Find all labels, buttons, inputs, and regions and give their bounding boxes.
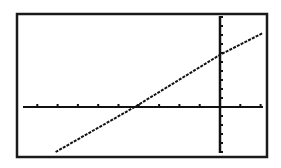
axes — [23, 16, 263, 153]
screen-frame — [17, 14, 267, 157]
calculator-graph-screen — [0, 0, 281, 168]
function-line-y1 — [56, 33, 263, 152]
graph-plot — [0, 0, 281, 168]
